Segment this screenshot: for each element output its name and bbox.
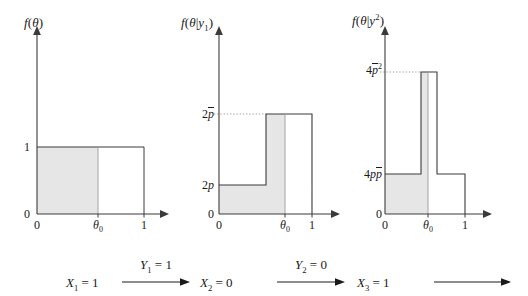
prior-x-axis-arrowhead	[160, 210, 169, 218]
posterior-2-x-axis-arrowhead	[483, 210, 492, 218]
posterior-1-ytick-label-2p: 2p	[174, 179, 214, 191]
chain-arrow-3-head	[501, 278, 511, 286]
chain-arrow-1-head	[180, 278, 190, 286]
chain-node-x3: X3 = 1	[357, 276, 390, 289]
panel-posterior-2: f(θ|y2) 4p2 4pp 0	[348, 0, 528, 250]
posterior-1-shaded-area	[219, 114, 285, 214]
posterior-1-xtick-label-theta0: θ0	[273, 219, 297, 231]
panel-posterior-2-axis-title: f(θ|y2)	[352, 14, 384, 27]
prior-shaded-area	[37, 147, 98, 214]
prior-ytick-label-1: 1	[4, 141, 30, 153]
posterior-2-xtick-label-theta0: θ0	[416, 219, 440, 231]
posterior-2-ytick-label-4pbar-sq: 4p2	[338, 64, 382, 76]
chain-arrow-2-head	[335, 278, 345, 286]
panel-posterior-1: f(θ|y1) 2p 2p 0	[176, 0, 348, 250]
figure-canvas: f(θ) 1 0 0 θ0 1	[0, 0, 528, 296]
prior-xtick-label-0: 0	[27, 219, 47, 231]
panel-prior-axis-title: f(θ)	[24, 16, 43, 29]
posterior-2-xtick-label-1: 1	[455, 219, 475, 231]
prior-xtick-label-1: 1	[134, 219, 154, 231]
prior-xtick-label-theta0: θ0	[86, 219, 110, 231]
posterior-2-xtick-label-0: 0	[375, 219, 395, 231]
chain-arrow-2-label: Y2 = 0	[277, 258, 345, 271]
panel-posterior-1-axis-title: f(θ|y1)	[181, 16, 213, 29]
observation-chain: X1 = 1 X2 = 0 X3 = 1 Y1 = 1 Y2 = 0	[0, 252, 528, 296]
chain-arrow-1-label: Y1 = 1	[122, 258, 190, 271]
posterior-2-ytick-label-4ppbar: 4pp	[336, 168, 382, 180]
chain-node-x1: X1 = 1	[66, 276, 99, 289]
posterior-1-ytick-label-0: 0	[174, 208, 214, 220]
posterior-1-y-axis-arrowhead	[215, 26, 223, 35]
panel-prior: f(θ) 1 0 0 θ0 1	[0, 0, 176, 250]
posterior-1-xtick-label-0: 0	[209, 219, 229, 231]
posterior-1-ytick-label-2pbar: 2p	[174, 108, 214, 120]
chain-node-x2: X2 = 0	[200, 276, 233, 289]
posterior-1-xtick-label-1: 1	[302, 219, 322, 231]
